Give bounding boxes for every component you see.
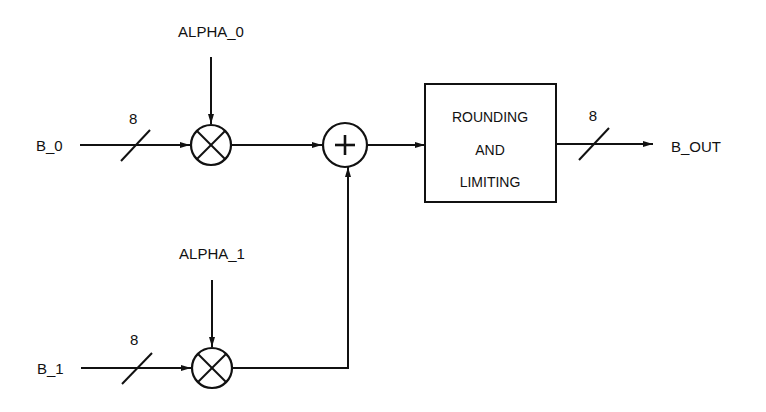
multiplier-1-icon	[192, 348, 232, 388]
multiplier-0-icon	[191, 125, 231, 165]
block-diagram: B_0 8 ALPHA_0 ROUNDING AND LIMITING 8 B_…	[0, 0, 766, 412]
input-label-alpha1: ALPHA_1	[179, 245, 245, 262]
block-label-line2: AND	[475, 142, 505, 158]
bus-width-b1: 8	[130, 331, 138, 348]
input-label-b1: B_1	[37, 360, 64, 377]
block-label-line1: ROUNDING	[452, 109, 528, 125]
input-label-alpha0: ALPHA_0	[178, 23, 244, 40]
adder-icon	[323, 123, 367, 167]
bus-width-output: 8	[589, 107, 597, 124]
block-label-line3: LIMITING	[460, 174, 521, 190]
rounding-limiting-block: ROUNDING AND LIMITING	[425, 84, 556, 202]
input-label-b0: B_0	[36, 137, 63, 154]
bus-width-b0: 8	[129, 110, 137, 127]
output-label: B_OUT	[671, 138, 721, 155]
wire-mult1-adder	[232, 167, 348, 368]
